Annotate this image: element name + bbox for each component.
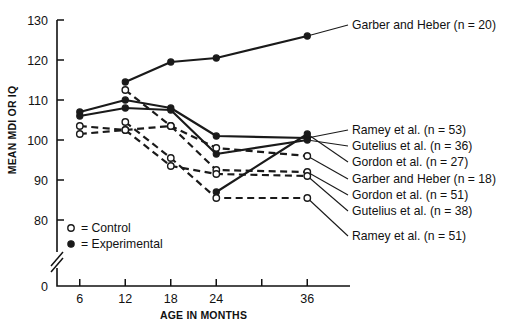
legend-marker-control	[68, 225, 74, 231]
y-tick-label: 130	[27, 14, 48, 28]
legend-marker-experimental	[68, 241, 74, 247]
data-point-control	[213, 145, 219, 151]
data-point-experimental	[122, 105, 128, 111]
data-point-experimental	[213, 133, 219, 139]
series-group: Gutelius et al. (n = 36)Gordon et al. (n…	[68, 87, 496, 251]
data-point-experimental	[122, 79, 128, 85]
series-label: Garber and Heber (n = 20)	[352, 18, 496, 32]
line-chart: 80901001101201300612182436AGE IN MONTHSM…	[0, 0, 525, 334]
data-point-experimental	[77, 113, 83, 119]
series-label: Gutelius et al. (n = 36)	[352, 139, 472, 153]
x-tick-label: 12	[118, 292, 132, 306]
series-label: Gordon et al. (n = 27)	[352, 155, 468, 169]
series-label: Gordon et al. (n = 51)	[352, 188, 468, 202]
data-point-control	[168, 163, 174, 169]
series-leader-line	[307, 25, 348, 36]
data-point-control	[304, 173, 310, 179]
y-tick-label: 80	[34, 214, 48, 228]
y-tick-label: 110	[28, 94, 48, 108]
series-group: Gordon et al. (n = 27)Garber and Heber (…	[68, 87, 496, 251]
x-tick-label: 18	[164, 292, 178, 306]
series-label: Garber and Heber (n = 18)	[352, 172, 496, 186]
x-tick-label: 36	[300, 292, 314, 306]
series-line	[216, 134, 307, 192]
data-point-control	[77, 123, 83, 129]
chart-container: 80901001101201300612182436AGE IN MONTHSM…	[0, 0, 525, 334]
series-leader-line	[307, 130, 348, 138]
legend-key: = Control= Experimental	[68, 221, 163, 251]
data-point-experimental	[168, 107, 174, 113]
axes: 80901001101201300612182436AGE IN MONTHSM…	[6, 14, 496, 321]
data-point-control	[122, 119, 128, 125]
data-point-control	[168, 155, 174, 161]
data-point-experimental	[122, 97, 128, 103]
series-leader-line	[307, 176, 348, 211]
y-tick-label: 90	[34, 174, 48, 188]
series-label: Ramey et al. (n = 51)	[352, 229, 466, 243]
x-axis-title: AGE IN MONTHS	[160, 309, 247, 321]
series-group: Garber and Heber (n = 20)Ramey et al. (n…	[68, 18, 496, 251]
series-leader-line	[307, 198, 348, 236]
data-point-experimental	[304, 131, 310, 137]
data-point-control	[213, 195, 219, 201]
data-point-experimental	[304, 137, 310, 143]
series-label: Gutelius et al. (n = 38)	[352, 204, 472, 218]
data-point-control	[122, 87, 128, 93]
series-leader-line	[307, 140, 348, 146]
data-point-control	[168, 123, 174, 129]
y-tick-label: 100	[27, 134, 48, 148]
data-point-control	[77, 131, 83, 137]
data-point-experimental	[213, 55, 219, 61]
data-point-control	[304, 153, 310, 159]
data-point-control	[304, 195, 310, 201]
series-group: Ramey et al. (n = 53)Gutelius et al. (n …	[68, 87, 496, 251]
data-point-control	[213, 171, 219, 177]
series-leader-line	[307, 134, 348, 162]
y-axis-title: MEAN MDI OR IQ	[6, 86, 18, 175]
series-line	[80, 108, 307, 154]
y-tick-label-zero: 0	[41, 280, 48, 294]
y-tick-label: 120	[27, 54, 48, 68]
data-point-control	[122, 127, 128, 133]
x-tick-label: 6	[76, 292, 83, 306]
data-point-experimental	[304, 33, 310, 39]
data-point-experimental	[168, 59, 174, 65]
legend-label-experimental: = Experimental	[81, 237, 163, 251]
legend-label-control: = Control	[81, 221, 131, 235]
series-label: Ramey et al. (n = 53)	[352, 123, 466, 137]
x-tick-label: 24	[209, 292, 223, 306]
x-axis	[57, 268, 350, 286]
